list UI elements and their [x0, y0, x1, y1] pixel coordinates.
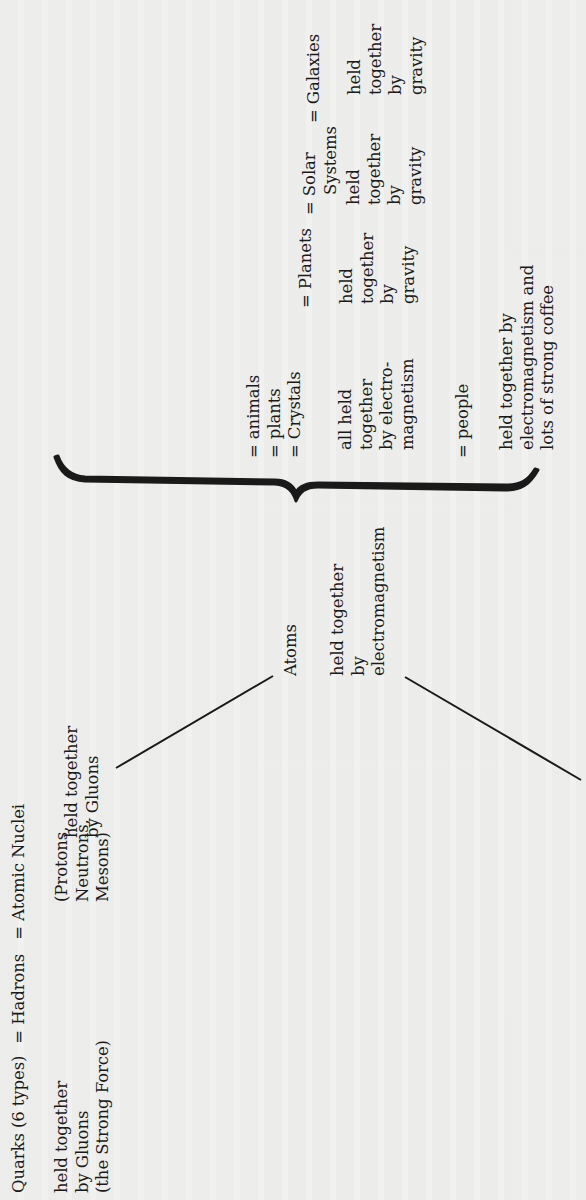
atoms-label: Atoms [281, 624, 302, 676]
planets-label: = Planets [296, 228, 317, 308]
brace-upper-items: = animals = plants = Crystals [244, 371, 306, 458]
solar-systems-label: = Solar Systems [300, 126, 341, 215]
curly-brace [55, 456, 538, 501]
nuclei-note: held together by Gluons [62, 726, 103, 838]
people-label: = people [453, 384, 474, 458]
solar-systems-note: held together by gravity [344, 134, 426, 205]
people-note: held together by electromagnetism and lo… [497, 265, 559, 450]
connector-nuclei-to-atoms [116, 676, 273, 768]
quarks-label: Quarks (6 types) [9, 1056, 28, 1193]
diagram-lines [0, 0, 586, 1200]
quarks-note: held together by Gluons (the Strong Forc… [52, 1040, 114, 1193]
connector-atoms-descending [405, 677, 581, 780]
atomic-nuclei-label: = Atomic Nuclei [9, 804, 28, 940]
galaxies-note: held together by gravity [345, 24, 427, 95]
galaxies-label: = Galaxies [304, 34, 325, 123]
chain-row: Quarks (6 types)= Hadrons= Atomic Nuclei [9, 804, 30, 1193]
atoms-note: held together by electromagnetism [328, 527, 390, 676]
hadrons-label: = Hadrons [9, 954, 28, 1044]
planets-note: held together by gravity [337, 233, 419, 304]
brace-upper-note: all held together by electro- magnetism [336, 358, 418, 450]
